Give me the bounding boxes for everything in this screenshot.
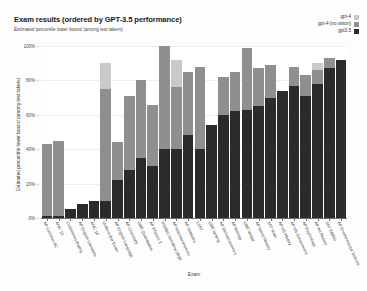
bar-group[interactable] (312, 46, 323, 218)
bar-group[interactable] (77, 46, 88, 218)
chart-subtitle: Estimated percentile lower bound (among … (14, 27, 254, 33)
bar-group[interactable] (336, 46, 347, 218)
bar-segment-gpt35 (206, 125, 217, 218)
y-axis-title: Estimated percentile lower bound (among … (16, 75, 21, 195)
bar-segment-gpt35 (300, 96, 311, 218)
bar-segment-gpt4-no-vision (183, 72, 194, 136)
bar-segment-gpt4-no-vision (53, 141, 64, 217)
bar-segment-gpt4-no-vision (289, 67, 300, 86)
bar-group[interactable] (253, 46, 264, 218)
bar-group[interactable] (124, 46, 135, 218)
bar-segment-gpt4 (171, 60, 182, 88)
bar-group[interactable] (300, 46, 311, 218)
bar-segment-gpt35 (195, 149, 206, 218)
bar-segment-gpt35 (230, 111, 241, 218)
chart-header: Exam results (ordered by GPT-3.5 perform… (14, 15, 254, 33)
bar-group[interactable] (265, 46, 276, 218)
chart-title: Exam results (ordered by GPT-3.5 perform… (14, 15, 254, 24)
bar-segment-gpt35 (136, 158, 147, 218)
bar-segment-gpt4-no-vision (324, 58, 335, 68)
bar-segment-gpt4-no-vision (112, 142, 123, 180)
x-axis-tick-label: LSAT (195, 221, 203, 232)
bar-segment-gpt4-no-vision (218, 77, 229, 115)
legend-item-gpt35: gpt3.5 (338, 28, 359, 34)
bar-segment-gpt4-no-vision (147, 105, 158, 167)
bar-segment-gpt35 (289, 86, 300, 218)
bar-series (41, 46, 347, 218)
bar-segment-gpt4-no-vision (171, 87, 182, 149)
bar-segment-gpt35 (65, 209, 76, 218)
x-axis-labels: AP Calculus BCAMC 12Codeforces RatingAP … (41, 221, 347, 271)
bar-group[interactable] (324, 46, 335, 218)
x-axis-tick-label: AMC 12 (53, 221, 63, 236)
legend-swatch-icon (354, 22, 359, 27)
bar-group[interactable] (277, 46, 288, 218)
plot-area (41, 46, 347, 218)
bar-group[interactable] (289, 46, 300, 218)
bar-segment-gpt4 (100, 63, 111, 89)
bar-segment-gpt35 (147, 166, 158, 218)
x-axis-tick-label: AP Biology (230, 221, 243, 241)
bar-segment-gpt35 (253, 106, 264, 218)
bar-segment-gpt4-no-vision (42, 144, 53, 216)
bar-segment-gpt35 (324, 68, 335, 218)
bar-group[interactable] (100, 46, 111, 218)
bar-group[interactable] (112, 46, 123, 218)
bar-group[interactable] (65, 46, 76, 218)
bar-group[interactable] (218, 46, 229, 218)
bar-group[interactable] (183, 46, 194, 218)
legend-item-gpt4: gpt-4 (341, 14, 359, 20)
bar-group[interactable] (206, 46, 217, 218)
x-axis-title: Exam (41, 272, 347, 277)
bar-segment-gpt4-no-vision (195, 67, 206, 150)
bar-segment-gpt4-no-vision (312, 70, 323, 84)
bar-group[interactable] (242, 46, 253, 218)
bar-segment-gpt35 (89, 201, 100, 218)
bar-segment-gpt4-no-vision (265, 65, 276, 98)
bar-segment-gpt4-no-vision (253, 68, 264, 106)
legend-item-gpt4-no-vision: gpt-4 (no vision) (318, 21, 359, 27)
bar-group[interactable] (171, 46, 182, 218)
bar-segment-gpt35 (183, 135, 194, 218)
y-axis-tick-label: 40% – (26, 147, 39, 152)
bar-group[interactable] (136, 46, 147, 218)
bar-segment-gpt4-no-vision (230, 72, 241, 112)
bar-segment-gpt4-no-vision (300, 75, 311, 96)
bar-segment-gpt35 (242, 110, 253, 218)
bar-segment-gpt35 (124, 170, 135, 218)
bar-segment-gpt4-no-vision (159, 46, 170, 149)
x-axis-tick-label: AMC 10 (89, 221, 99, 236)
bar-group[interactable] (159, 46, 170, 218)
chart-legend: gpt-4 gpt-4 (no vision) gpt3.5 (318, 14, 359, 34)
chart-figure: Exam results (ordered by GPT-3.5 perform… (0, 0, 367, 291)
y-axis-tick-label: 60% – (26, 112, 39, 117)
bar-segment-gpt35 (312, 84, 323, 218)
y-axis-tick-label: 80% – (26, 78, 39, 83)
bar-group[interactable] (195, 46, 206, 218)
y-axis-tick-label: 20% – (26, 181, 39, 186)
legend-label: gpt-4 (no vision) (318, 21, 351, 27)
x-axis-tick-label: SAT Math (265, 221, 277, 239)
x-axis-tick-label: GRE Verbal (242, 221, 255, 243)
bar-segment-gpt4-no-vision (100, 89, 111, 201)
y-axis: 0% –20% –40% –60% –80% –100% – (0, 46, 41, 218)
bar-segment-gpt4-no-vision (242, 48, 253, 110)
legend-label: gpt3.5 (338, 28, 351, 34)
bar-segment-gpt35 (112, 180, 123, 218)
x-axis-line (41, 218, 347, 219)
bar-segment-gpt35 (277, 91, 288, 218)
bar-segment-gpt4 (312, 63, 323, 70)
bar-group[interactable] (89, 46, 100, 218)
bar-segment-gpt35 (265, 98, 276, 218)
bar-group[interactable] (147, 46, 158, 218)
y-axis-tick-label: 100% – (23, 44, 39, 49)
bar-segment-gpt35 (100, 201, 111, 218)
bar-segment-gpt35 (77, 204, 88, 218)
bar-segment-gpt35 (336, 60, 347, 218)
legend-swatch-icon (354, 15, 359, 20)
x-axis-tick-label: AP Environmental Science (336, 221, 361, 267)
legend-label: gpt-4 (341, 14, 351, 20)
bar-group[interactable] (53, 46, 64, 218)
bar-group[interactable] (42, 46, 53, 218)
bar-group[interactable] (230, 46, 241, 218)
